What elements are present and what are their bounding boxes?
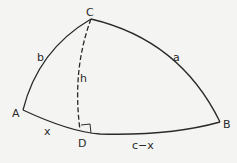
vertex-c-label: C [86, 6, 94, 19]
vertex-b-label: B [223, 118, 231, 131]
segment-c-minus-x-label: c−x [132, 139, 154, 152]
vertex-d-label: D [78, 137, 86, 150]
segment-x-label: x [44, 125, 51, 138]
altitude-h-label: h [80, 72, 87, 85]
side-c-arc [23, 110, 220, 134]
side-a-arc [91, 19, 220, 122]
side-b-label: b [37, 51, 44, 64]
side-b-arc [23, 19, 91, 110]
side-a-label: a [173, 51, 180, 64]
vertex-a-label: A [12, 107, 20, 120]
spherical-triangle-diagram: C A B D b a h x c−x [0, 0, 237, 163]
